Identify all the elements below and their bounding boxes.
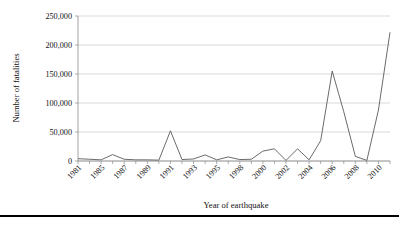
x-tick-labels-group: 1981198519871989199119931995199820002002… [65,163,383,181]
x-tick-marks-group [78,161,390,164]
x-tick-label: 1993 [181,163,199,181]
x-tick-label: 1987 [112,163,130,181]
x-tick-label: 2002 [273,163,291,181]
x-axis-title: Year of earthquake [204,200,269,210]
chart-figure: 250,000200,000150,000100,00050,0000 1981… [0,0,399,226]
x-tick-label: 1998 [227,163,245,181]
y-axis-title: Number of fatalities [11,53,21,123]
y-tick-label: 250,000 [45,12,72,21]
x-tick-label: 2008 [343,163,361,181]
data-series-line [78,32,390,160]
y-tick-label: 150,000 [45,70,72,79]
gridlines-group [78,16,390,161]
x-tick-label: 1985 [89,163,107,181]
y-tick-label: 200,000 [45,41,72,50]
y-tick-label: 100,000 [45,99,72,108]
x-tick-label: 2010 [366,163,384,181]
y-tick-label: 0 [68,157,72,166]
y-tick-label: 50,000 [49,128,72,137]
y-tick-marks-group [75,16,78,161]
x-tick-label: 2006 [320,163,338,181]
x-tick-label: 1989 [135,163,153,181]
y-tick-labels-group: 250,000200,000150,000100,00050,0000 [45,12,72,166]
x-tick-label: 2004 [297,163,315,181]
bottom-rule-divider [0,215,399,217]
x-tick-label: 1995 [204,163,222,181]
x-tick-label: 1991 [158,163,176,181]
fatalities-line-chart: 250,000200,000150,000100,00050,0000 1981… [0,0,399,226]
x-tick-label: 2000 [250,163,268,181]
